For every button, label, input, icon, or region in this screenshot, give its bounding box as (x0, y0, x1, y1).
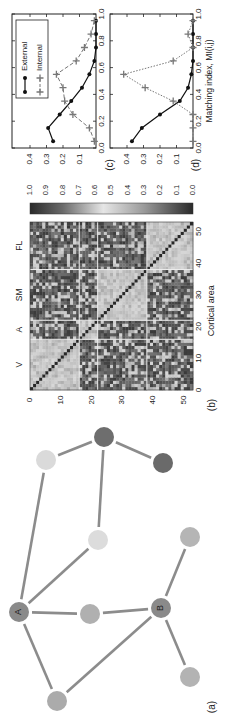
matrix-tick-label-y: 40 (148, 395, 157, 404)
series-line-external (132, 21, 193, 142)
colorbar-tick-label: 0.3 (139, 185, 148, 195)
data-point (86, 124, 93, 131)
matrix-tick-label-y: 20 (87, 395, 96, 404)
matrix-axis-label: Cortical area (206, 285, 216, 336)
x-tick-label: 0.6 (97, 61, 106, 73)
data-point (81, 44, 88, 51)
data-point (87, 72, 91, 76)
data-point (189, 72, 193, 76)
data-point (178, 99, 182, 103)
data-point (51, 139, 55, 143)
network-edge (99, 450, 103, 527)
module-label: SM (14, 289, 24, 302)
data-point (158, 113, 162, 117)
panel-label-a: (a) (206, 701, 217, 713)
module-label: A (14, 327, 24, 333)
data-point (170, 57, 177, 64)
series-line-internal (124, 21, 193, 142)
data-point (130, 139, 134, 143)
figure: 0.00.20.40.60.81.00.10.20.30.4ExternalIn… (0, 0, 225, 721)
legend-label-internal: Internal (35, 44, 44, 71)
x-tick-label: 0.4 (97, 88, 106, 100)
network-edge (166, 620, 185, 665)
y-tick-label: 0.1 (75, 153, 84, 165)
y-tick-label: 0.2 (155, 153, 164, 165)
data-point (94, 32, 98, 36)
colorbar-tick-label: 0.6 (90, 185, 99, 195)
x-tick-label: 0.2 (97, 115, 106, 127)
network-edge (116, 442, 151, 458)
data-point (53, 71, 60, 78)
x-axis-label: Matching index, MI(i,j) (204, 39, 214, 122)
colorbar-tick-label: 0.7 (74, 185, 83, 195)
data-point (94, 46, 98, 50)
x-tick-label: 0.0 (194, 142, 203, 154)
network-node (80, 604, 100, 624)
series-line-internal (56, 21, 94, 142)
data-point (60, 84, 67, 91)
matrix-tick-label-x: 30 (194, 290, 203, 299)
colorbar-tick-label: 0.1 (172, 185, 181, 195)
matrix-tick-label-x: 10 (194, 353, 203, 362)
matrix-tick-label-y: 30 (117, 395, 126, 404)
data-point (186, 86, 190, 90)
data-point (69, 99, 73, 103)
x-tick-label: 0.6 (194, 61, 203, 73)
network-node (180, 667, 200, 687)
x-tick-label: 1.0 (194, 8, 203, 20)
matrix-tick-label-x: 20 (194, 322, 203, 331)
x-tick-label: 1.0 (97, 8, 106, 20)
y-tick-label: 0.1 (172, 153, 181, 165)
x-tick-label: 0.4 (194, 88, 203, 100)
matrix-tick-label-x: 40 (194, 258, 203, 267)
network-edge (24, 624, 52, 689)
network-node (94, 427, 114, 447)
data-point (73, 57, 80, 64)
network-edge (67, 617, 152, 693)
matrix-tick-label-y: 10 (56, 395, 65, 404)
network-edge (58, 442, 92, 455)
module-label: V (14, 361, 24, 367)
colorbar-tick-label: 1.0 (25, 185, 34, 195)
colorbar (30, 203, 193, 214)
data-point (140, 126, 144, 130)
data-point (80, 86, 84, 90)
matrix-tick-label-y: 50 (179, 395, 188, 404)
data-point (88, 31, 95, 38)
matrix-tick-label-x: 0 (194, 387, 203, 392)
colorbar-tick-label: 0.5 (106, 185, 115, 195)
y-tick-label: 0.2 (58, 153, 67, 165)
node-label: B (155, 605, 165, 611)
data-point (191, 32, 195, 36)
colorbar-tick-label: 0.4 (123, 185, 132, 195)
y-tick-label: 0.3 (139, 153, 148, 165)
x-tick-label: 0.0 (97, 142, 106, 154)
matrix-tick-label-x: 50 (194, 227, 203, 236)
panel-d-chart: 0.00.20.40.60.81.00.10.20.30.4Matching i… (110, 8, 214, 165)
node-label: A (13, 609, 23, 615)
network-edge (29, 549, 89, 603)
data-point (92, 59, 96, 63)
network-node (153, 453, 173, 473)
data-point (46, 126, 50, 130)
panel-b-matrix: VASMFL0010102020303040405050Cortical are… (14, 185, 216, 405)
data-point (61, 98, 68, 105)
data-point (58, 113, 62, 117)
y-tick-label: 0.4 (122, 153, 131, 165)
panel-label-d: (d) (190, 159, 201, 171)
panel-label-c: (c) (104, 159, 115, 171)
plot-frame (110, 14, 193, 148)
module-label: FL (14, 241, 24, 251)
data-point (120, 71, 127, 78)
network-node (36, 450, 56, 470)
data-point (191, 59, 195, 63)
panel-a-network: AB (9, 427, 200, 711)
x-tick-label: 0.8 (194, 35, 203, 47)
panel-label-b: (b) (206, 399, 217, 411)
y-tick-label: 0.4 (25, 153, 34, 165)
x-tick-label: 0.2 (194, 115, 203, 127)
network-edge (32, 612, 77, 613)
panel-c-chart: 0.00.20.40.60.81.00.10.20.30.4ExternalIn… (12, 8, 106, 165)
network-edge (103, 609, 148, 613)
colorbar-tick-label: 0.9 (41, 185, 50, 195)
